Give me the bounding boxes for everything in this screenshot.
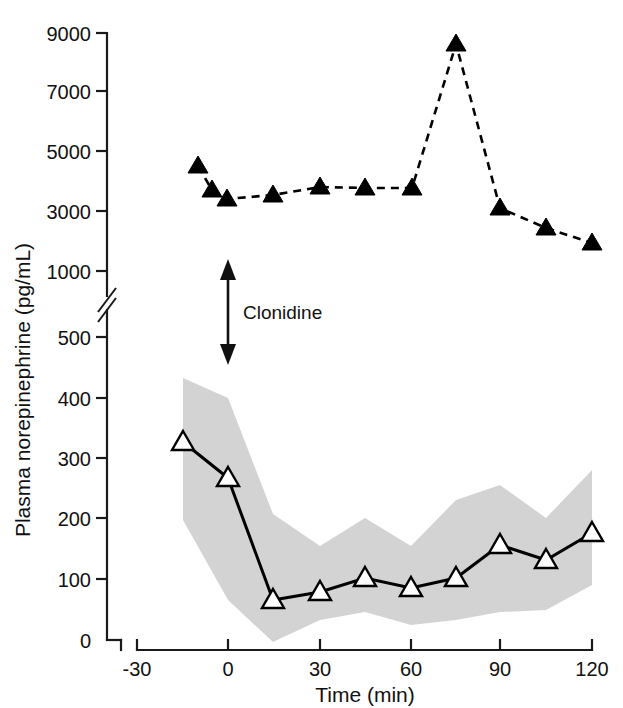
x-axis-group: -30 0 30 60 90 120 Time (min): [107, 639, 609, 706]
x-tick-label-120: 120: [575, 658, 608, 680]
shaded-range-band: [183, 378, 592, 642]
y-tick-label-9000: 9000: [47, 23, 92, 45]
x-tick-label-m30: -30: [123, 658, 152, 680]
chart-canvas: 9000 7000 5000 3000 1000 500 400 300 200…: [0, 0, 623, 708]
series-pheochromocytoma: [188, 34, 602, 250]
y-tick-label-200: 200: [58, 508, 91, 530]
x-tick-label-0: 0: [222, 658, 233, 680]
y-tick-label-1000: 1000: [47, 261, 92, 283]
clonidine-arrow-head-down: [220, 344, 236, 365]
y-tick-label-100: 100: [58, 569, 91, 591]
y-tick-label-7000: 7000: [47, 81, 92, 103]
series-pheochromocytoma-markers: [188, 34, 602, 250]
y-tick-label-0: 0: [80, 630, 91, 652]
clonidine-label: Clonidine: [243, 302, 322, 323]
x-tick-label-30: 30: [309, 658, 331, 680]
y-tick-label-400: 400: [58, 388, 91, 410]
figure-container: 9000 7000 5000 3000 1000 500 400 300 200…: [0, 0, 623, 708]
y-tick-label-500: 500: [58, 327, 91, 349]
x-tick-label-60: 60: [400, 658, 422, 680]
y-axis-title: Plasma norepinephrine (pg/mL): [11, 243, 34, 537]
y-axis-group: 9000 7000 5000 3000 1000 500 400 300 200…: [11, 23, 116, 652]
clonidine-annotation: Clonidine: [220, 259, 322, 365]
y-tick-label-300: 300: [58, 448, 91, 470]
y-tick-label-5000: 5000: [47, 141, 92, 163]
y-tick-label-3000: 3000: [47, 201, 92, 223]
clonidine-arrow-head-up: [220, 259, 236, 280]
x-tick-label-90: 90: [489, 658, 511, 680]
x-axis-title: Time (min): [315, 683, 415, 706]
series-pheochromocytoma-line: [198, 44, 592, 243]
